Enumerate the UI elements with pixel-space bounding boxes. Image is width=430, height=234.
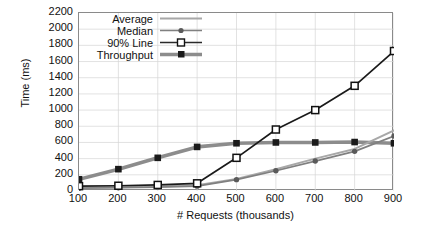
data-point-throughput [194, 144, 201, 151]
x-axis-title: # Requests (thousands) [78, 209, 393, 221]
data-point-throughput [312, 139, 319, 146]
data-point-90-line [312, 107, 319, 114]
data-point-90-line [391, 48, 395, 55]
data-point-90-line [154, 181, 161, 188]
chart-legend: Average Median 90% Line Throughput [96, 13, 204, 60]
data-point-throughput [273, 139, 280, 146]
data-point-median [313, 158, 318, 163]
legend-label-average: Average [112, 13, 153, 25]
data-point-90-line [233, 154, 240, 161]
legend-swatch-throughput [158, 49, 204, 60]
legend-item-median: Median [96, 25, 204, 36]
data-point-90-line [272, 126, 279, 133]
data-point-90-line [351, 82, 358, 89]
legend-swatch-average [158, 13, 204, 24]
legend-label-90-line: 90% Line [107, 37, 153, 49]
legend-label-throughput: Throughput [97, 49, 153, 61]
x-tick-label: 300 [137, 192, 177, 204]
x-tick-label: 700 [294, 192, 334, 204]
legend-item-average: Average [96, 13, 204, 24]
legend-label-median: Median [117, 25, 153, 37]
legend-swatch-median [158, 25, 204, 36]
x-tick-label: 600 [255, 192, 295, 204]
data-point-throughput [233, 140, 240, 147]
data-point-median [391, 133, 394, 138]
data-point-throughput [391, 140, 394, 147]
x-tick-label: 900 [373, 192, 413, 204]
x-tick-label: 800 [334, 192, 374, 204]
line-chart: Time (ms) 020040060080010001200140016001… [0, 0, 430, 234]
data-point-throughput [115, 166, 122, 173]
legend-item-90-line: 90% Line [96, 37, 204, 48]
data-point-median [352, 149, 357, 154]
data-point-90-line [194, 180, 201, 187]
x-tick-label: 200 [97, 192, 137, 204]
data-point-90-line [115, 182, 122, 189]
data-point-median [234, 177, 239, 182]
data-point-throughput [351, 139, 358, 146]
legend-item-throughput: Throughput [96, 49, 204, 60]
data-point-median [273, 168, 278, 173]
data-point-throughput [79, 176, 82, 183]
x-tick-label: 100 [58, 192, 98, 204]
data-point-90-line [79, 183, 83, 190]
x-tick-label: 500 [216, 192, 256, 204]
x-tick-label: 400 [176, 192, 216, 204]
legend-swatch-90-line [158, 37, 204, 48]
data-point-throughput [154, 155, 161, 162]
